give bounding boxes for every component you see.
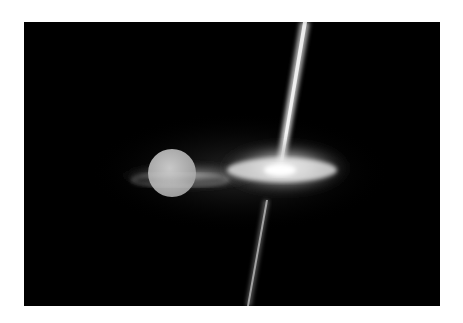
astronomy-illustration — [24, 22, 440, 306]
accretion-disk — [215, 140, 355, 196]
illustration-canvas — [24, 22, 440, 306]
